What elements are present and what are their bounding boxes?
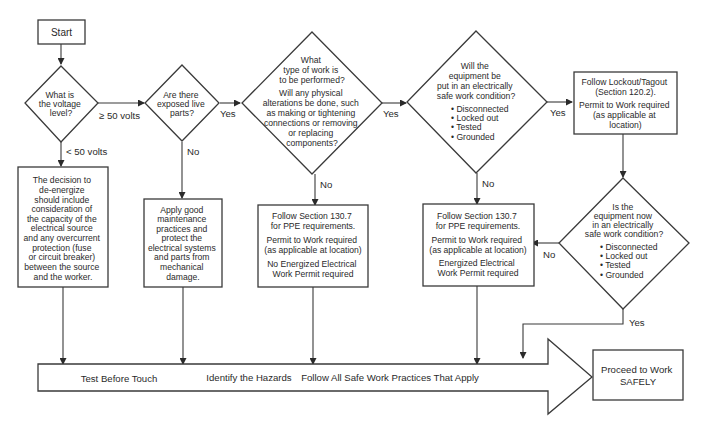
edge-label-ge50: ≥ 50 volts (99, 110, 140, 121)
edge-label-esw-now-no: No (543, 249, 555, 260)
deenergize-box: The decision to de-energize should inclu… (18, 167, 108, 287)
safe-practices-arrow: Test Before Touch Identify the Hazards F… (38, 339, 592, 414)
safety-flowchart: Start What is the voltage level? ≥ 50 vo… (0, 0, 702, 431)
ppe-no-permit-box: Follow Section 130.7 for PPE requirement… (258, 205, 368, 287)
edge-label-exposed-no: No (187, 146, 199, 157)
ppe-no-permit-section: Follow Section 130.7 for PPE requirement… (271, 211, 356, 231)
work-type-decision: What type of work is to be performed? Wi… (242, 32, 382, 174)
esw-decision: Will the equipment be put in an electric… (407, 31, 547, 173)
ppe-no-permit-eewp: No Energized Electrical Work Permit requ… (267, 259, 359, 279)
voltage-decision: What is the voltage level? (25, 66, 98, 142)
edge-label-work-no: No (320, 179, 332, 190)
start-label: Start (51, 27, 72, 38)
ppe-permit-box: Follow Section 130.7 for PPE requirement… (423, 204, 534, 286)
arrow-item-identify-hazards: Identify the Hazards (206, 372, 292, 383)
edge-label-esw-now-yes: Yes (629, 317, 645, 328)
esw-now-decision: Is the equipment now in an electrically … (559, 178, 689, 309)
edge-label-exposed-yes: Yes (220, 108, 236, 119)
arrow-item-test-before-touch: Test Before Touch (81, 373, 158, 384)
ppe-no-permit-ptw: Permit to Work required (as applicable a… (264, 235, 362, 255)
start-node: Start (38, 20, 85, 44)
ppe-permit-eewp: Energized Electrical Work Permit require… (437, 258, 518, 278)
arrow-item-safe-work-practices: Follow All Safe Work Practices That Appl… (301, 372, 479, 383)
proceed-box: Proceed to Work SAFELY (593, 350, 683, 400)
edge-label-lt50: < 50 volts (66, 146, 108, 157)
exposed-parts-decision: Are there exposed live parts? (145, 65, 219, 141)
ppe-permit-section: Follow Section 130.7 for PPE requirement… (436, 211, 521, 231)
lockout-tagout-box: Follow Lockout/Tagout (Section 120.2). P… (574, 72, 677, 134)
edge-label-esw-no: No (482, 178, 494, 189)
edge-label-work-yes: Yes (383, 108, 399, 119)
maintenance-box: Apply good maintenance practices and pro… (144, 199, 222, 287)
edge-label-esw-yes: Yes (550, 107, 566, 118)
ppe-permit-ptw: Permit to Work required (as applicable a… (429, 235, 527, 255)
